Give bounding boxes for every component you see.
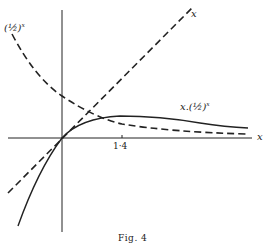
curve-line-x bbox=[8, 8, 192, 193]
label-line-x: x bbox=[191, 9, 197, 19]
curve-half-pow-x bbox=[12, 34, 248, 134]
curve-x-times-half-pow-x bbox=[18, 116, 248, 226]
label-x-times-half-pow-x: x.(½)x bbox=[180, 101, 210, 112]
x-axis-label: x bbox=[257, 132, 263, 142]
label-half-pow-x: (½)x bbox=[4, 22, 25, 33]
figure-caption: Fig. 4 bbox=[118, 233, 147, 243]
tick-label-1-4: 1·4 bbox=[113, 142, 127, 151]
